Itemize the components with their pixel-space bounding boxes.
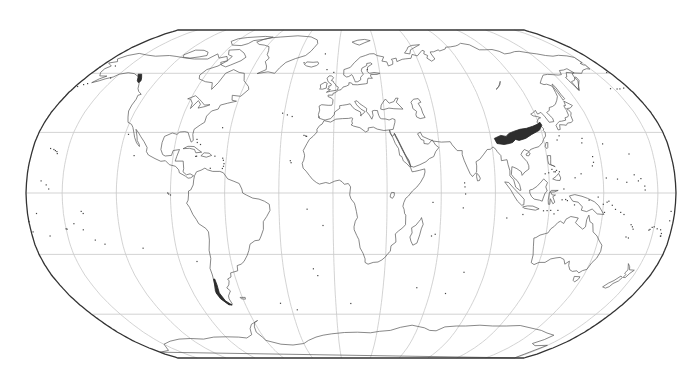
landmass-taiwan [545,143,548,149]
map-frame-outline [26,30,676,358]
island-dot [322,225,323,226]
world-map [0,0,697,379]
island-dot [56,151,57,152]
island-dot [553,171,554,172]
island-dot [55,150,56,151]
landmass-victoria-island [183,50,208,58]
landmass-cuba [183,146,202,153]
island-dot [612,205,613,206]
island-dot [196,261,197,262]
island-dot [628,153,629,154]
landmass-madagascar [410,218,423,246]
island-dot [326,69,327,70]
meridian-line [225,30,284,358]
island-dot [87,83,88,84]
island-dot [128,134,129,135]
landmass-philippines-luzon [547,156,555,167]
island-dot [604,212,605,213]
island-dot [318,117,319,118]
landmass-north-america [92,53,249,178]
landmass-sri-lanka [477,173,481,181]
island-dot [671,211,672,212]
island-dot [563,188,564,189]
island-dot [95,240,96,241]
meridian-line [370,30,387,358]
island-dot [317,275,318,276]
island-dot [463,272,464,273]
island-dot [547,210,548,211]
island-dot [465,193,466,194]
island-dot [574,204,575,205]
landmass-borneo [530,179,548,201]
island-dot [567,200,568,201]
island-dot [592,156,593,157]
island-dot [83,213,84,214]
island-dot [657,228,658,229]
island-dot [593,162,594,163]
island-dot [290,160,291,161]
meridian-line [333,30,342,358]
island-dot [623,214,624,215]
island-dot [592,165,593,166]
island-dots [28,53,671,310]
island-dot [367,69,368,70]
island-dot [610,88,611,89]
island-dot [307,209,308,210]
island-dot [464,186,465,187]
island-dot [648,230,649,231]
island-dot [222,168,223,169]
island-dot [543,210,544,211]
landmass-new-zealand-south [603,276,623,288]
island-dot [463,207,464,208]
island-dot [304,62,305,63]
island-dot [297,309,298,310]
island-dot [602,143,603,144]
meridian-line [399,30,441,358]
island-dot [620,212,621,213]
island-dot [57,153,58,154]
island-dot [115,65,116,66]
highlight-chile-coast [214,279,233,305]
island-dot [506,217,507,218]
island-dot [50,235,51,236]
meridian-line [116,30,226,358]
island-dot [623,88,624,89]
landmass-hispaniola [201,153,212,157]
island-dot [565,199,566,200]
island-dot [619,88,620,89]
island-dot [214,156,215,157]
island-dot [640,178,641,179]
island-dot [325,53,326,54]
island-dot [196,139,197,140]
island-dot [110,77,111,78]
island-dot [553,213,554,214]
landmass-ireland [320,82,328,89]
island-dot [631,224,632,225]
island-dot [598,197,599,198]
highlight-south-china-region [494,122,542,144]
island-dot [581,142,582,143]
island-dot [200,144,201,145]
island-dot [464,182,465,183]
island-dot [350,303,351,304]
meridian-line [457,30,550,358]
meridian-line [62,30,197,358]
island-dot [607,202,608,203]
island-dot [555,171,556,172]
landmass-greenland [257,36,318,74]
island-dot [53,149,54,150]
landmass-lake-baikal [496,81,500,89]
island-dot [615,209,616,210]
island-dot [661,233,662,234]
island-dot [77,86,78,87]
island-dot [222,127,223,128]
island-dot [603,204,604,205]
island-dot [581,138,582,139]
island-dot [223,166,224,167]
island-dot [559,135,560,136]
island-dot [545,173,546,174]
island-dot [333,72,334,73]
island-dot [416,287,417,288]
highlight-alaska-panhandle [137,74,141,83]
island-dot [222,158,223,159]
